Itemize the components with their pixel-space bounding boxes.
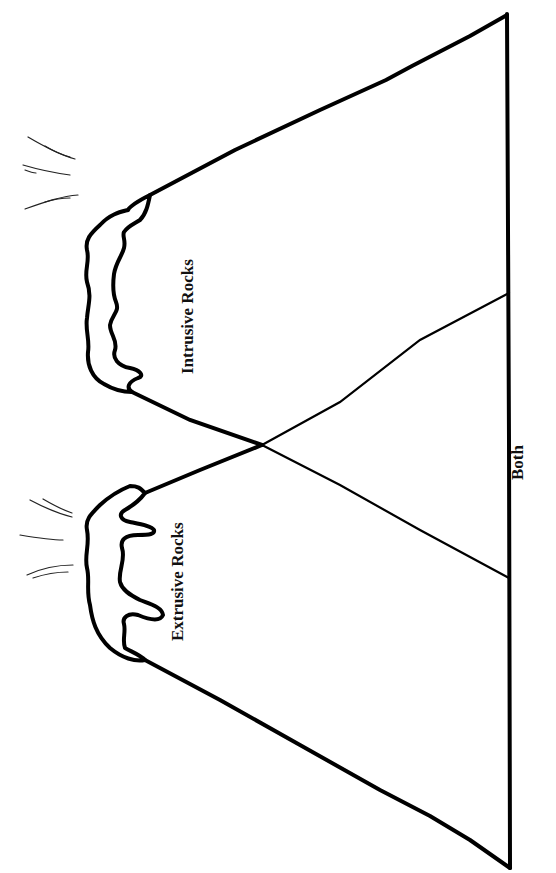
extrusive-crater bbox=[86, 486, 163, 661]
extrusive-inner-slope bbox=[145, 445, 262, 493]
base-line bbox=[507, 14, 510, 868]
intrusive-crossing-line bbox=[262, 445, 509, 578]
intrusive-inner-slope bbox=[132, 392, 262, 445]
extrusive-steam-lines bbox=[20, 499, 73, 578]
extrusive-outer-slope bbox=[145, 660, 510, 868]
both-label: Both bbox=[508, 445, 528, 480]
extrusive-crossing-line bbox=[262, 293, 509, 445]
intrusive-steam-lines bbox=[23, 137, 78, 209]
intrusive-rocks-label: Intrusive Rocks bbox=[178, 259, 198, 374]
intrusive-outer-slope bbox=[150, 15, 507, 195]
intrusive-crater bbox=[86, 195, 150, 392]
volcano-venn-diagram bbox=[0, 0, 556, 873]
extrusive-rocks-label: Extrusive Rocks bbox=[168, 522, 188, 641]
